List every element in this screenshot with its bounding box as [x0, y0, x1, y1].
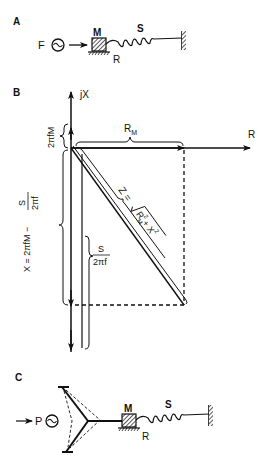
- wall-icon: [182, 31, 186, 50]
- panel-b: B jX R RM Z = R2M+ X2 2πfM: [13, 87, 255, 352]
- acoustic-impedance-diagram: A F M R S B jX: [0, 0, 268, 462]
- svg-text:X = 2πfM −: X = 2πfM −: [22, 227, 32, 272]
- resistance-label: R: [142, 431, 149, 442]
- net-reactance-brace: [59, 150, 68, 305]
- impedance-vector: [71, 148, 184, 305]
- mass-block: [92, 38, 106, 51]
- panel-a-label: A: [13, 16, 20, 27]
- ground-hatch: [88, 52, 110, 55]
- svg-text:S: S: [17, 200, 27, 206]
- mass-label: M: [124, 403, 132, 414]
- svg-text:2πf: 2πf: [93, 257, 107, 267]
- mass-block: [122, 414, 136, 427]
- ac-source-icon: [46, 415, 58, 427]
- spring-icon: [136, 414, 209, 423]
- panel-c: C P M R S: [15, 372, 213, 452]
- resistance-label: R: [113, 54, 120, 65]
- svg-text:S: S: [98, 244, 104, 254]
- pressure-label: P: [35, 415, 42, 427]
- svg-text:Z =: Z =: [116, 185, 134, 204]
- panel-c-label: C: [15, 372, 22, 383]
- rm-brace: [76, 137, 183, 146]
- svg-text:2πf: 2πf: [30, 196, 40, 210]
- net-reactance-label: X = 2πfM − S 2πf: [17, 192, 40, 272]
- ground-hatch: [118, 428, 140, 431]
- impedance-vector-outline: [73, 146, 187, 304]
- diaphragm-icon: [58, 387, 100, 452]
- spring-label: S: [165, 399, 172, 410]
- wall-icon: [209, 405, 213, 426]
- mass-reactance-brace: [60, 124, 68, 148]
- panel-a: A F M R S: [13, 16, 186, 65]
- stiffness-reactance-brace: [85, 236, 93, 349]
- rm-label: RM: [124, 123, 137, 136]
- stiffness-reactance-label: S 2πf: [93, 244, 110, 267]
- spring-label: S: [137, 23, 144, 34]
- mass-label: M: [93, 27, 101, 38]
- svg-text:R2M+ X2: R2M+ X2: [132, 208, 160, 239]
- mass-reactance-label: 2πfM: [46, 127, 56, 148]
- spring-icon: [106, 38, 182, 47]
- ac-source-icon: [52, 39, 64, 51]
- force-label: F: [38, 39, 45, 51]
- x-axis-label: R: [248, 129, 255, 140]
- panel-b-label: B: [13, 87, 20, 98]
- y-axis-label: jX: [79, 89, 89, 100]
